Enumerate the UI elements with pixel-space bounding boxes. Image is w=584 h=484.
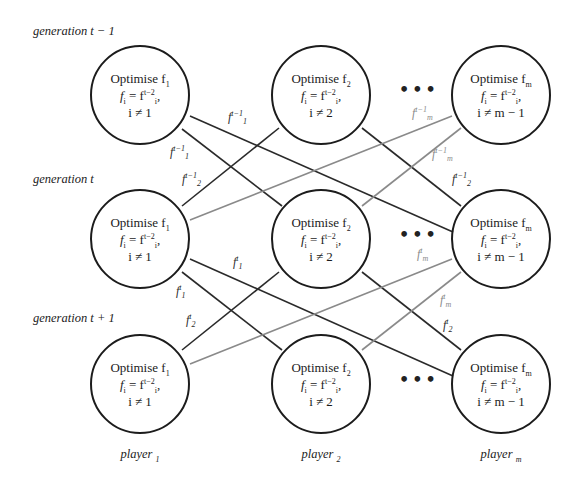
edge-label: ftm [440, 293, 451, 308]
edge-label: ft−12 [182, 172, 201, 187]
node-gen-prev-player-m: Optimise fm fi = ft−2i, i ≠ m − 1 [451, 45, 551, 145]
node-constraint: fi = ft−2i, [301, 376, 341, 393]
edge-label: ft−1m [432, 147, 453, 162]
node-index-condition: i ≠ m − 1 [477, 248, 525, 265]
node-gen-prev-player-1: Optimise f1 fi = ft−2i, i ≠ 1 [90, 45, 190, 145]
node-index-condition: i ≠ 1 [128, 248, 152, 265]
node-constraint: fi = ft−2i, [481, 376, 521, 393]
node-constraint: fi = ft−2i, [481, 87, 521, 104]
edge-label: ft2 [443, 318, 453, 333]
node-title: Optimise fm [470, 359, 531, 376]
node-title: Optimise fm [470, 214, 531, 231]
ellipsis-prev: ••• [399, 80, 439, 99]
player-label-2: player 2 [301, 447, 340, 462]
node-title: Optimise f2 [291, 70, 350, 87]
node-index-condition: i ≠ 1 [128, 393, 152, 410]
ellipsis-next: ••• [399, 370, 439, 389]
edge-label: ft1 [176, 284, 186, 299]
edge-label: ft−11 [170, 145, 189, 160]
edge-label: ft−12 [452, 172, 471, 187]
node-index-condition: i ≠ 2 [309, 393, 333, 410]
node-index-condition: i ≠ 2 [309, 104, 333, 121]
node-title: Optimise f1 [110, 359, 169, 376]
node-gen-next-player-m: Optimise fm fi = ft−2i, i ≠ m − 1 [451, 334, 551, 434]
edge-label: ft1 [233, 255, 243, 270]
coevolution-diagram: generation t − 1 generation t generation… [0, 0, 584, 484]
player-label-1: player 1 [120, 447, 159, 462]
ellipsis-current: ••• [399, 225, 439, 244]
node-gen-current-player-2: Optimise f2 fi = ft−2i, i ≠ 2 [271, 189, 371, 289]
edge-label: ft−1m [412, 106, 433, 121]
node-title: Optimise f2 [291, 359, 350, 376]
node-constraint: fi = ft−2i, [120, 376, 160, 393]
node-index-condition: i ≠ m − 1 [477, 393, 525, 410]
node-constraint: fi = ft−2i, [301, 231, 341, 248]
edge-label: ftm [417, 247, 428, 262]
node-constraint: fi = ft−2i, [481, 231, 521, 248]
node-constraint: fi = ft−2i, [120, 231, 160, 248]
node-gen-next-player-2: Optimise f2 fi = ft−2i, i ≠ 2 [271, 334, 371, 434]
node-constraint: fi = ft−2i, [120, 87, 160, 104]
node-gen-current-player-1: Optimise f1 fi = ft−2i, i ≠ 1 [90, 189, 190, 289]
generation-label-prev: generation t − 1 [33, 24, 115, 39]
generation-label-next: generation t + 1 [33, 311, 115, 326]
node-gen-next-player-1: Optimise f1 fi = ft−2i, i ≠ 1 [90, 334, 190, 434]
node-index-condition: i ≠ 2 [309, 248, 333, 265]
edge-label: ft2 [186, 313, 196, 328]
player-label-m: player m [481, 447, 522, 462]
edge-label: ft−11 [228, 110, 247, 125]
node-title: Optimise f1 [110, 214, 169, 231]
node-title: Optimise f1 [110, 70, 169, 87]
node-title: Optimise f2 [291, 214, 350, 231]
node-title: Optimise fm [470, 70, 531, 87]
generation-label-current: generation t [33, 172, 94, 187]
node-constraint: fi = ft−2i, [301, 87, 341, 104]
node-gen-current-player-m: Optimise fm fi = ft−2i, i ≠ m − 1 [451, 189, 551, 289]
node-index-condition: i ≠ 1 [128, 104, 152, 121]
node-index-condition: i ≠ m − 1 [477, 104, 525, 121]
node-gen-prev-player-2: Optimise f2 fi = ft−2i, i ≠ 2 [271, 45, 371, 145]
